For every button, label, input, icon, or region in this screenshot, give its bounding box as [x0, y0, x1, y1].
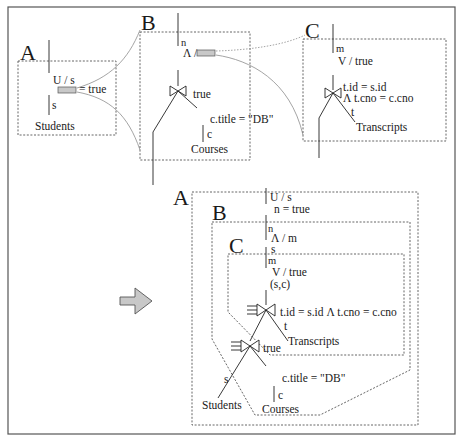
after-join-top: t.id = s.id Λ t.cno = c.cno t Transcript…: [247, 290, 397, 348]
join-cond-2: Λ t.cno = c.cno: [343, 92, 414, 104]
link-curve: [77, 30, 140, 88]
table-courses: Courses: [262, 403, 300, 415]
edge-label: t: [284, 320, 288, 332]
edge-line: [153, 91, 178, 185]
placeholder-box: [58, 87, 76, 93]
after-join-bottom: true s Students c.title = "DB" c Courses: [202, 340, 345, 415]
box-b-label: B: [141, 10, 156, 35]
box-a-label: A: [20, 40, 36, 65]
edge-line: [218, 346, 250, 398]
right-arrow-icon: [120, 288, 152, 314]
box-a-label: A: [173, 185, 189, 210]
table-students: Students: [202, 399, 242, 411]
op-label: U / s: [270, 191, 292, 203]
before-box-c: C m V / true t.id = s.id Λ t.cno = c.cno…: [303, 18, 446, 158]
placeholder-box: [197, 50, 215, 56]
before-box-b: B n Λ / true c.title = "DB" c Courses: [140, 10, 273, 185]
op-label: U / s: [53, 74, 75, 86]
box-c-label: C: [229, 233, 244, 258]
op-label: V / true: [338, 55, 373, 67]
figure-frame: [8, 7, 455, 434]
cond-label: n = true: [274, 203, 310, 215]
edge-out-label: (s,c): [270, 278, 290, 291]
edge-out-label: s: [271, 243, 276, 255]
before-box-a: A U / s = true s Students: [18, 40, 116, 135]
edge-label: s: [52, 99, 57, 111]
edge-in-label: m: [336, 43, 344, 54]
link-curve: [216, 35, 305, 51]
join-cond: true: [263, 342, 281, 354]
op-label: V / true: [272, 266, 307, 278]
edge-line: [319, 93, 333, 158]
box-b-label: B: [212, 200, 227, 225]
edge-label: t: [351, 106, 355, 118]
join-cond: t.id = s.id Λ t.cno = c.cno: [280, 306, 397, 318]
select-cond: c.title = "DB": [282, 372, 345, 384]
op-label: Λ /: [183, 47, 198, 59]
left-edge-label: s: [224, 373, 229, 385]
table-transcripts: Transcripts: [288, 335, 340, 348]
after-box-a: A U / s n = true: [173, 185, 418, 425]
right-edge-label: c: [278, 389, 283, 401]
edge-in-label: m: [268, 255, 276, 266]
diagram-canvas: A U / s = true s Students B n Λ / true c…: [0, 0, 461, 445]
select-cond: c.title = "DB": [210, 113, 273, 125]
table-transcripts: Transcripts: [356, 121, 408, 134]
table-students: Students: [35, 120, 75, 132]
edge-label: c: [207, 128, 212, 140]
join-cond: true: [193, 88, 211, 100]
box-c-label: C: [305, 18, 320, 43]
table-courses: Courses: [191, 143, 229, 155]
link-curve: [77, 92, 140, 150]
